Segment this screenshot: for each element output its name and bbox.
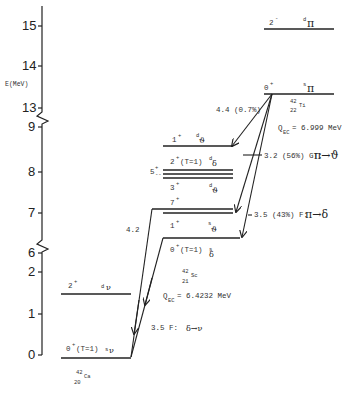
axis-tick-labels: 15 14 13 9 8 7 6 2 1 0 E(MeV)	[5, 18, 36, 362]
svg-text:0: 0	[66, 345, 71, 353]
tick-6: 6	[28, 245, 35, 260]
svg-text:+: +	[270, 80, 273, 87]
svg-text:Ca: Ca	[84, 373, 91, 380]
svg-text:7: 7	[170, 199, 175, 207]
svg-text:(T=1): (T=1)	[180, 246, 203, 254]
svg-text:2: 2	[269, 19, 274, 27]
svg-text:0: 0	[264, 84, 269, 92]
svg-text:Ti: Ti	[299, 102, 306, 109]
svg-text:2: 2	[68, 282, 73, 290]
energy-axis	[37, 6, 48, 355]
svg-text:π→ϑ: π→ϑ	[314, 149, 338, 162]
svg-text:(T=1): (T=1)	[180, 158, 203, 166]
svg-text:1: 1	[172, 136, 177, 144]
svg-text:20: 20	[74, 379, 81, 386]
tick-15: 15	[22, 18, 36, 33]
svg-text:3: 3	[170, 184, 175, 192]
svg-text:42: 42	[182, 268, 189, 275]
svg-text:δ: δ	[209, 250, 214, 259]
svg-text:21: 21	[182, 278, 189, 285]
svg-text:42: 42	[76, 369, 83, 376]
svg-text:s: s	[105, 346, 108, 353]
svg-text:d: d	[303, 16, 306, 23]
svg-text:2: 2	[170, 158, 175, 166]
svg-text:-: -	[275, 15, 278, 22]
svg-text:ν: ν	[109, 346, 114, 355]
svg-text:= 6.999 MeV: = 6.999 MeV	[292, 124, 342, 132]
svg-text:3.5 F:: 3.5 F:	[151, 324, 178, 332]
svg-text:+: +	[178, 132, 181, 139]
svg-text:π: π	[307, 17, 314, 30]
svg-text:+: +	[72, 341, 75, 348]
svg-text:4.4 (0.7%): 4.4 (0.7%)	[216, 106, 261, 114]
svg-text:42: 42	[290, 98, 297, 105]
svg-text:0: 0	[170, 246, 175, 254]
svg-text:EC: EC	[168, 297, 175, 304]
ti-levels: 2 - d π 0 + s π 42 Ti 22 Q EC = 6.999 Me…	[264, 15, 342, 136]
tick-13: 13	[22, 100, 36, 115]
svg-text:1: 1	[170, 222, 175, 230]
tick-2: 2	[28, 264, 35, 279]
tick-0: 0	[28, 347, 35, 362]
svg-text:+: +	[74, 278, 77, 285]
svg-text:+: +	[176, 242, 179, 249]
transitions: 4.4 (0.7%) 3.2 (56%) GT: π→ϑ 3.5 (43%) F…	[126, 94, 338, 357]
tick-14: 14	[22, 58, 36, 73]
svg-text:4.2: 4.2	[126, 226, 140, 234]
svg-text:d: d	[101, 283, 104, 290]
ca-levels: 2 + d ν 0 + (T=1) s ν 42 Ca 20	[61, 278, 131, 386]
svg-text:ϑ: ϑ	[211, 225, 217, 234]
energy-level-diagram: 15 14 13 9 8 7 6 2 1 0 E(MeV) 2 - d π 0 …	[0, 0, 352, 396]
svg-text:= 6.4232 MeV: = 6.4232 MeV	[177, 292, 232, 300]
svg-text:Sc: Sc	[191, 272, 198, 279]
svg-text:s: s	[303, 81, 306, 88]
tick-8: 8	[28, 164, 35, 179]
svg-text:ν: ν	[106, 283, 111, 292]
tick-9: 9	[28, 119, 35, 134]
tick-1: 1	[28, 306, 35, 321]
svg-text:(T=1): (T=1)	[76, 345, 99, 353]
svg-text:3.5 (43%) F:: 3.5 (43%) F:	[254, 211, 308, 219]
svg-text:+: +	[155, 164, 158, 171]
svg-text:π: π	[307, 82, 314, 95]
svg-text:EC: EC	[283, 129, 290, 136]
svg-text:π→δ: π→δ	[305, 208, 328, 221]
svg-text:--: --	[155, 171, 162, 178]
svg-text:ϑ: ϑ	[212, 186, 218, 195]
svg-text:22: 22	[290, 107, 297, 114]
svg-text:δ→ν: δ→ν	[186, 324, 203, 333]
svg-text:+: +	[176, 195, 179, 202]
axis-label: E(MeV)	[5, 81, 28, 88]
svg-text:+: +	[176, 154, 179, 161]
tick-7: 7	[28, 205, 35, 220]
svg-text:+: +	[176, 218, 179, 225]
svg-text:+: +	[176, 180, 179, 187]
svg-text:δ: δ	[212, 159, 217, 168]
sc-levels: 1 + d ϑ 2 + (T=1) d δ 5 + -- 3 + d ϑ 7 +…	[150, 132, 240, 304]
svg-text:ϑ: ϑ	[199, 136, 205, 145]
